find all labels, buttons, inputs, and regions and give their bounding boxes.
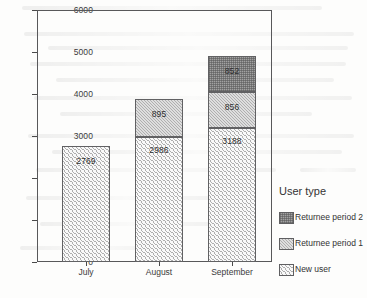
bar-value-label: 856: [209, 103, 255, 112]
bar-august[interactable]: 895 2986: [135, 10, 183, 262]
legend-item-label: Returnee period 2: [295, 213, 363, 222]
x-axis-tick-mark: [232, 262, 233, 266]
bar-segment-new-user[interactable]: 3188: [208, 128, 256, 262]
legend-swatch-icon: [279, 264, 294, 276]
legend-swatch-icon: [279, 212, 294, 224]
bar-value-label: 2769: [63, 157, 109, 166]
bar-september[interactable]: 852 856 3188: [208, 10, 256, 262]
legend-item-returnee-period-2[interactable]: Returnee period 2: [279, 211, 367, 224]
stacked-bar-chart: 6000 5000 4000 3000 2000 1000 0 2769 895…: [0, 0, 367, 298]
bar-segment-new-user[interactable]: 2769: [62, 146, 110, 262]
x-axis-tick-mark: [86, 262, 87, 266]
bar-segment-returnee-period-1[interactable]: 895: [135, 99, 183, 137]
bar-segment-returnee-period-1[interactable]: 856: [208, 92, 256, 128]
bar-value-label: 852: [209, 67, 255, 76]
bar-segment-new-user[interactable]: 2986: [135, 137, 183, 262]
legend: User type Returnee period 2 Returnee per…: [279, 186, 367, 289]
x-axis-tick-label-september: September: [200, 268, 264, 277]
legend-swatch-icon: [279, 238, 294, 250]
bar-value-label: 3188: [209, 137, 255, 146]
x-axis-tick-label-august: August: [129, 268, 189, 277]
x-axis-tick-mark: [159, 262, 160, 266]
bar-value-label: 895: [136, 110, 182, 119]
bar-value-label: 2986: [136, 146, 182, 155]
legend-item-new-user[interactable]: New user: [279, 263, 367, 276]
legend-item-returnee-period-1[interactable]: Returnee period 1: [279, 237, 367, 250]
bar-july[interactable]: 2769: [62, 10, 110, 262]
legend-item-label: New user: [295, 265, 331, 274]
x-axis-tick-label-july: July: [56, 268, 116, 277]
y-axis-tick-mark: [32, 262, 37, 263]
legend-item-label: Returnee period 1: [295, 239, 363, 248]
bar-segment-returnee-period-2[interactable]: 852: [208, 56, 256, 92]
legend-title: User type: [279, 186, 367, 197]
